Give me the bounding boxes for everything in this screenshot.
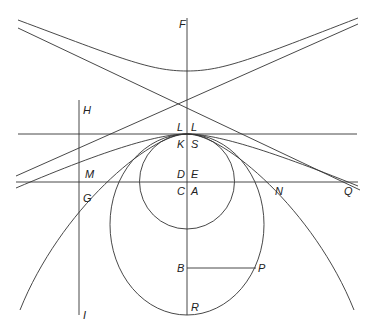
conic-diagram: F H L L K S M D E C A G N Q B P R I bbox=[0, 0, 374, 330]
label-K: K bbox=[177, 139, 184, 150]
label-B: B bbox=[177, 263, 184, 274]
label-A: A bbox=[191, 186, 198, 197]
label-R: R bbox=[191, 302, 199, 313]
label-S: S bbox=[191, 139, 198, 150]
label-N: N bbox=[275, 186, 283, 197]
label-L-left: L bbox=[177, 122, 183, 133]
label-H: H bbox=[83, 105, 91, 116]
label-M: M bbox=[85, 169, 94, 180]
label-E: E bbox=[191, 169, 198, 180]
label-G: G bbox=[83, 193, 92, 204]
label-I: I bbox=[83, 310, 86, 321]
diagram-canvas bbox=[0, 0, 374, 330]
asymptote-1 bbox=[18, 28, 360, 190]
label-F: F bbox=[179, 19, 186, 30]
label-L-right: L bbox=[191, 122, 197, 133]
label-D: D bbox=[177, 169, 185, 180]
label-P: P bbox=[258, 263, 265, 274]
label-C: C bbox=[177, 186, 185, 197]
hyperbola-upper bbox=[18, 18, 358, 71]
label-Q: Q bbox=[344, 186, 353, 197]
